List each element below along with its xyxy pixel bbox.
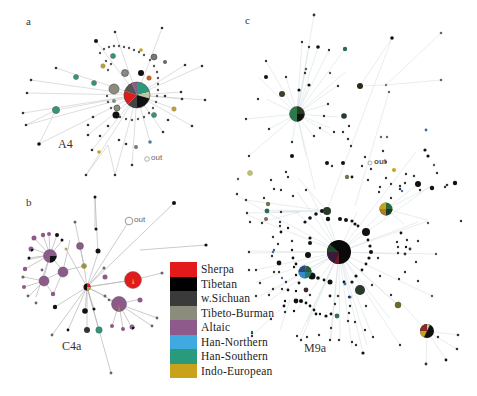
panel-a-haplogroup-label: A4 [58, 137, 73, 152]
legend-label: Han-Southern [201, 350, 268, 362]
panel-c-right-hub-pie [380, 203, 393, 216]
panel-a-out-node [145, 157, 150, 162]
legend-swatch-han-southern [170, 349, 197, 364]
legend-label: Altaic [201, 321, 230, 333]
legend-label: Han-Northern [201, 336, 268, 348]
legend-swatch-han-northern [170, 335, 197, 350]
panel-a-nodes [22, 27, 207, 177]
legend-item-han-southern: Han-Southern [170, 349, 274, 364]
legend-label: Sherpa [201, 263, 234, 275]
legend-swatch-tibeto-burman [170, 306, 197, 321]
legend-item-altaic: Altaic [170, 320, 274, 335]
population-legend: Sherpa Tibetan w.Sichuan Tibeto-Burman A… [170, 262, 274, 378]
legend-item-tibetan: Tibetan [170, 277, 274, 292]
legend-label: Tibetan [201, 278, 237, 290]
legend-item-w-sichuan: w.Sichuan [170, 291, 274, 306]
panel-b-haplogroup-label: C4a [62, 339, 81, 354]
panel-c-upper-hub-pie [290, 107, 305, 122]
panel-c-letter: c [245, 14, 250, 26]
legend-swatch-tibetan [170, 277, 197, 292]
panel-c-out-node [368, 161, 372, 165]
panel-c-main-hub-pie [327, 240, 351, 264]
legend-label: Tibeto-Burman [201, 307, 274, 319]
panel-c-bottom-hub-pie [420, 324, 434, 338]
panel-b-out-label: out [134, 215, 145, 224]
panel-c-out-label: out [374, 157, 386, 166]
panel-b-out-node [125, 217, 133, 225]
panel-b-letter: b [26, 196, 32, 208]
panel-a-letter: a [26, 15, 31, 27]
legend-item-sherpa: Sherpa [170, 262, 274, 277]
legend-item-tibeto-burman: Tibeto-Burman [170, 306, 274, 321]
legend-swatch-altaic [170, 320, 197, 335]
panel-a-hub-pie [124, 82, 150, 108]
legend-item-indo-european: Indo-European [170, 364, 274, 379]
legend-item-han-northern: Han-Northern [170, 335, 274, 350]
panel-a-out-label: out [151, 153, 162, 162]
panel-c-haplogroup-label: M9a [304, 341, 326, 356]
legend-label: Indo-European [201, 365, 273, 377]
legend-swatch-w-sichuan [170, 291, 197, 306]
legend-swatch-sherpa [170, 262, 197, 277]
legend-swatch-indo-european [170, 364, 197, 379]
legend-label: w.Sichuan [201, 292, 250, 304]
panel-c-left-hub-pie [299, 266, 312, 279]
